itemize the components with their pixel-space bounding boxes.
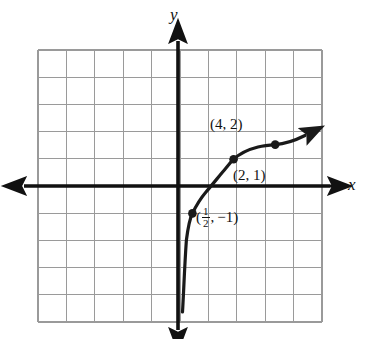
x-axis-label: x (348, 176, 356, 193)
open-paren: ( (196, 210, 201, 225)
close-paren: ) (233, 210, 238, 225)
point-label-2-1: (2, 1) (233, 168, 266, 183)
logarithmic-graph-figure: y x (4, 2) (2, 1) ( 1 2 , −1 ) (0, 0, 367, 339)
fraction-denominator: 2 (202, 218, 210, 229)
axes (24, 41, 332, 330)
point-four-two (271, 140, 280, 149)
comma-separator: , (211, 210, 215, 225)
y-value-negative-one: −1 (217, 210, 233, 225)
fraction-one-half: 1 2 (202, 206, 210, 229)
y-axis-label: y (170, 6, 178, 23)
point-label-half-negative-one: ( 1 2 , −1 ) (196, 206, 238, 229)
coordinate-plane (0, 0, 367, 339)
point-label-4-2: (4, 2) (210, 117, 243, 132)
point-two-one (229, 155, 238, 164)
fraction-numerator: 1 (202, 206, 210, 217)
